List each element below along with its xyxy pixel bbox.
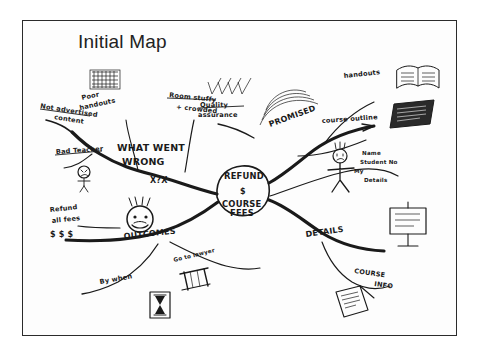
node-label-course-outline: course outline [322, 113, 379, 125]
node-poor-handouts[interactable]: Poor handouts [79, 70, 138, 170]
node-label-quality: Quality [200, 101, 229, 109]
node-label-refund-3: $ $ $ [50, 230, 74, 239]
clipboard-icon [336, 286, 374, 317]
node-my-details[interactable]: Name Student No My Details [328, 142, 398, 192]
node-label-my: My [354, 168, 364, 175]
center-label-dollar: $ [240, 187, 246, 196]
node-course-info[interactable]: COURSE INFO [322, 242, 394, 317]
node-label-name: Name [362, 150, 381, 156]
angry-face-icon [78, 166, 90, 192]
checkmarks-icon [208, 78, 251, 94]
center-label-fees: FEES [230, 208, 254, 218]
node-label-bad-teacher: Bad Teacher [56, 145, 105, 156]
node-label-course-info-2: INFO [374, 280, 394, 291]
scales-of-justice-icon [180, 268, 210, 290]
node-label-handouts: handouts [343, 68, 380, 80]
node-bad-teacher[interactable]: Bad Teacher [55, 145, 104, 192]
node-go-to-lawyer[interactable]: Go to lawyer [170, 242, 260, 290]
branch-label-what-went-wrong-1: WHAT WENT [117, 142, 185, 153]
smiley-head-icon [127, 197, 153, 232]
node-label-refund-1: Refund [49, 203, 77, 214]
mindmap-drawing: REFUND $ COURSE FEES WHAT WENT WRONG X?X… [22, 20, 457, 336]
node-label-course-info-1: COURSE [354, 267, 386, 279]
slide-canvas: Initial Map REFUND $ COURSE FEES WHAT WE… [0, 0, 480, 357]
node-label-student-no: Student No [360, 159, 398, 165]
branch-what-went-wrong[interactable]: WHAT WENT WRONG X?X [72, 132, 217, 194]
center-label-refund: REFUND [224, 171, 264, 181]
node-label-details-sub: Details [364, 177, 388, 183]
branch-label-what-went-wrong-2: WRONG [122, 156, 165, 167]
dark-page-icon [390, 100, 434, 128]
stick-figure-icon [328, 142, 354, 192]
hourglass-icon [150, 292, 170, 318]
node-label-go-to-lawyer: Go to lawyer [173, 247, 216, 264]
node-label-refund-2: all fees [51, 214, 80, 225]
branch-marks-what-went-wrong: X?X [150, 176, 168, 185]
node-refund-all-fees[interactable]: Refund all fees $ $ $ [49, 203, 120, 239]
node-by-when[interactable]: By when [82, 244, 170, 318]
whiteboard-icon [390, 202, 426, 246]
center-node[interactable]: REFUND $ COURSE FEES [217, 166, 269, 218]
open-book-icon [397, 66, 439, 88]
hatched-sheet-icon [90, 70, 120, 89]
node-quality-assurance[interactable]: Quality assurance [198, 78, 254, 138]
node-label-by-when: By when [99, 272, 133, 286]
node-label-assurance: assurance [198, 111, 238, 119]
